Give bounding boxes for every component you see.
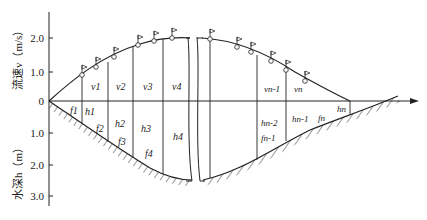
velocity-label-v1: v1 <box>91 81 100 92</box>
velocity-label-v2: v2 <box>116 81 125 92</box>
area-label-f4: f4 <box>145 148 153 159</box>
tick-label-origin: 0 <box>39 95 45 107</box>
depth-label-hn-2: hn-2 <box>261 118 278 128</box>
depth-label-h1: h1 <box>85 106 95 117</box>
velocity-depth-diagram: 2.0 1.0 0 1.0 2.0 3.0 流速v（m/s） 水深h（m） <box>0 0 427 220</box>
arrow-icon <box>410 98 419 104</box>
area-label-fn-1: fn-1 <box>261 133 276 143</box>
velocity-label-v4: v4 <box>172 81 181 92</box>
tick-label-v-1: 1.0 <box>30 66 44 78</box>
riverbed-hatch-right <box>203 96 400 186</box>
depth-label-h2: h2 <box>115 118 125 129</box>
tick-label-h-2: 2.0 <box>30 159 44 171</box>
velocity-label-vn: vn <box>294 84 303 94</box>
tick-label-v-2: 2.0 <box>30 32 44 44</box>
area-label-f2: f2 <box>96 123 104 134</box>
tick-label-h-3: 3.0 <box>30 190 44 202</box>
tick-label-h-1: 1.0 <box>30 127 44 139</box>
velocity-label-vn-1: vn-1 <box>264 84 280 94</box>
water-surface-line <box>49 98 419 104</box>
area-label-f1: f1 <box>70 105 78 116</box>
break-line-left <box>188 37 192 181</box>
depth-label-h3: h3 <box>141 123 151 134</box>
area-label-f3: f3 <box>118 136 126 147</box>
break-line-right <box>197 37 200 181</box>
area-label-fn: fn <box>318 113 326 123</box>
velocity-label-v3: v3 <box>143 81 152 92</box>
y-axis-title-velocity: 流速v（m/s） <box>11 25 24 90</box>
depth-label-hn: hn <box>337 104 347 114</box>
measurement-markers <box>80 28 310 83</box>
y-axis-title-depth: 水深h（m） <box>12 142 24 200</box>
depth-label-h4: h4 <box>173 131 183 142</box>
depth-label-hn-1: hn-1 <box>292 114 309 124</box>
